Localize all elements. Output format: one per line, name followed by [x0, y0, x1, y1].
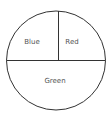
region-label-green: Green — [44, 77, 65, 85]
region-label-blue: Blue — [24, 38, 40, 46]
region-label-red: Red — [65, 38, 78, 46]
divided-circle-diagram: Blue Red Green — [0, 0, 106, 117]
